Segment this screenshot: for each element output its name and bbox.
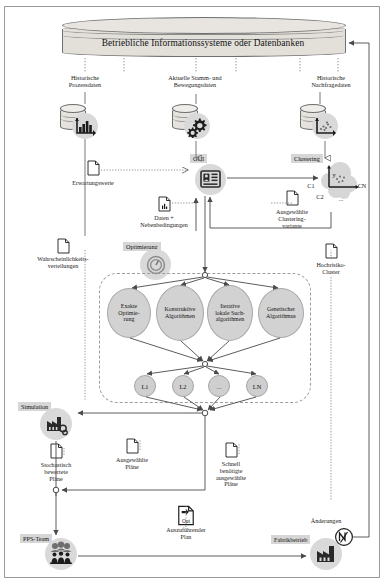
doc-label-ausgewaehlte-plaene: Ausgewählte Pläne bbox=[89, 457, 175, 471]
plan-node-dots: ... bbox=[208, 375, 230, 397]
doc-label-wahrscheinlichkeitsverteilungen: Wahrscheinlichkeits- verteilungen bbox=[20, 256, 106, 270]
label-aenderungen: Änderungen bbox=[297, 518, 355, 525]
document-icon-wahrscheinlichkeitsverteilungen bbox=[57, 238, 70, 254]
cluster-label-dots: ... bbox=[334, 196, 348, 203]
scatter-plot-icon bbox=[314, 116, 336, 138]
label-aktuelle-stammdaten: Aktuelle Stamm- und Bewegungsdaten bbox=[148, 75, 242, 88]
tag-simulation: Simulation bbox=[18, 402, 51, 411]
cluster-label-c2: C2 bbox=[313, 194, 327, 201]
gui-form-icon bbox=[200, 169, 221, 190]
tag-pps-team: PPS-Team bbox=[20, 534, 52, 543]
page-title: Betriebliche Informationssysteme oder Da… bbox=[62, 38, 344, 48]
doc-label-hochrisiko-cluster: Hochrisiko- Cluster bbox=[288, 262, 374, 276]
gauge-icon bbox=[146, 255, 166, 275]
doc-label-auszufuehrender-plan: Auszuführender Plan bbox=[143, 527, 229, 541]
tag-fabrikbetrieb: Fabrikbetrieb bbox=[271, 535, 310, 544]
label-historische-nachfragedaten: Historische Nachfragedaten bbox=[290, 75, 372, 88]
factory-simulation-icon bbox=[45, 413, 68, 436]
doc-label-erwartungswerte: Erwartungswerte bbox=[50, 180, 136, 187]
tag-gui: GUI bbox=[190, 154, 207, 163]
bar-chart-icon bbox=[74, 116, 96, 138]
document-icon-schnell-benoetigte-plaene bbox=[225, 442, 238, 458]
document-icon-erwartungswerte bbox=[87, 160, 100, 176]
document-icon-ausgewaehlte-clusteringvariante bbox=[286, 190, 299, 206]
changes-signal-icon bbox=[334, 527, 354, 547]
doc-label-daten-nebenbedingungen: Daten + Nebenbedingungen bbox=[121, 215, 207, 229]
algorithm-node-iterative-lokale-suchalgorithmen[interactable]: Iterative lokale Such- algorithmen bbox=[207, 285, 253, 341]
document-icon-hochrisiko-cluster bbox=[325, 243, 338, 259]
doc-label-schnell-benoetigte-plaene: Schnell benötigte ausgewählte Pläne bbox=[188, 461, 274, 488]
algorithm-node-exakte-optimierung[interactable]: Exakte Optimie- rung bbox=[107, 288, 151, 338]
document-icon-daten-nebenbedingungen bbox=[158, 196, 171, 212]
doc-label-ausgewaehlte-clusteringvariante: Ausgewählte Clustering- variante bbox=[249, 209, 335, 229]
algorithm-node-konstruktive-algorithmen[interactable]: Konstruktive Algorithmen bbox=[156, 285, 204, 341]
plan-node-l2[interactable]: L2 bbox=[172, 375, 194, 397]
gears-icon bbox=[186, 116, 208, 138]
diagram-canvas: Betriebliche Informationssysteme oder Da… bbox=[0, 0, 386, 585]
doc-label-stochastisch-bewertete-plaene: Stochastisch bewertete Pläne bbox=[13, 462, 99, 482]
doc-badge-out: Out bbox=[163, 518, 209, 524]
algorithm-node-genetischer-algorithmus[interactable]: Genetischer Algorithmus bbox=[258, 288, 304, 338]
plan-node-l1[interactable]: L1 bbox=[134, 375, 156, 397]
cluster-label-c1: C1 bbox=[304, 183, 318, 190]
label-historische-prozessdaten: Historische Prozessdaten bbox=[46, 75, 124, 88]
team-people-icon bbox=[49, 541, 73, 565]
document-icon-ausgewaehlte-plaene bbox=[126, 438, 139, 454]
document-icon-stochastisch-bewertete-plaene bbox=[50, 443, 63, 459]
plan-node-ln[interactable]: LN bbox=[246, 375, 268, 397]
cluster-label-cn: CN bbox=[353, 183, 371, 190]
